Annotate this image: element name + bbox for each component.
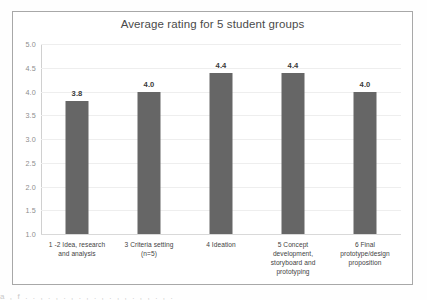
figure-page: Average rating for 5 student groups 5.04… <box>0 0 427 300</box>
y-axis-tick-label: 3.5 <box>25 111 36 120</box>
chart-title: Average rating for 5 student groups <box>13 18 412 30</box>
gridline-1.0: 1.0 <box>41 234 401 235</box>
bar[interactable] <box>138 92 161 235</box>
y-axis-tick-label: 3.0 <box>25 135 36 144</box>
plot-area: 5.04.54.03.53.02.52.01.51.03.81 -2 Idea,… <box>41 44 401 234</box>
y-axis-tick-label: 5.0 <box>25 40 36 49</box>
bar[interactable] <box>282 73 305 235</box>
bar-group: 4.44 Ideation <box>185 44 257 234</box>
bar[interactable] <box>66 101 89 234</box>
x-axis-category-label: 3 Criteria setting(n=5) <box>110 240 188 258</box>
bar-group: 4.06 Finalprototype/designproposition <box>329 44 401 234</box>
bar-group: 4.45 Conceptdevelopment,storyboard andpr… <box>257 44 329 234</box>
bar-value-label: 4.4 <box>288 61 299 70</box>
bar-group: 4.03 Criteria setting(n=5) <box>113 44 185 234</box>
x-axis-category-label: 5 Conceptdevelopment,storyboard andproto… <box>254 240 332 276</box>
y-axis-tick-label: 2.0 <box>25 182 36 191</box>
y-axis-tick-label: 4.5 <box>25 63 36 72</box>
bar-value-label: 3.8 <box>72 89 83 98</box>
x-axis-category-label: 6 Finalprototype/designproposition <box>326 240 404 267</box>
y-axis-tick-label: 1.0 <box>25 230 36 239</box>
x-axis-category-label: 4 Ideation <box>182 240 260 249</box>
y-axis-tick-label: 4.0 <box>25 87 36 96</box>
bar-value-label: 4.4 <box>216 61 227 70</box>
y-axis-tick-label: 2.5 <box>25 158 36 167</box>
bar[interactable] <box>210 73 233 235</box>
y-axis-tick-label: 1.5 <box>25 206 36 215</box>
clipped-caption-text: a , f . . , . , . , . , . , . , , . , , … <box>0 292 427 300</box>
bar-group: 3.81 -2 Idea, researchand analysis <box>41 44 113 234</box>
chart-frame: Average rating for 5 student groups 5.04… <box>12 11 413 285</box>
bar[interactable] <box>354 92 377 235</box>
x-axis-category-label: 1 -2 Idea, researchand analysis <box>38 240 116 258</box>
bar-value-label: 4.0 <box>360 80 371 89</box>
bar-value-label: 4.0 <box>144 80 155 89</box>
